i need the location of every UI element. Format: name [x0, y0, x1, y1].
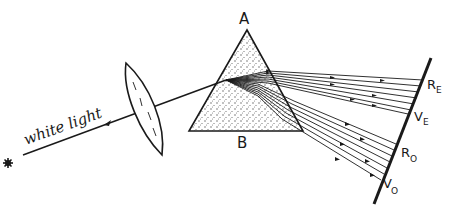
label-violet-extraordinary: V E	[414, 109, 429, 127]
label-red-ordinary: R O	[401, 145, 417, 164]
incident-ray-arrow-icon	[104, 120, 111, 126]
apex-label: A	[239, 10, 250, 28]
svg-text:O: O	[391, 186, 398, 196]
double-refraction-diagram: white light A B	[0, 0, 450, 211]
svg-text:E: E	[436, 85, 442, 95]
svg-text:R: R	[401, 145, 410, 160]
light-source-icon	[3, 158, 13, 168]
white-light-label: white light	[21, 104, 105, 149]
converging-lens	[125, 63, 162, 155]
base-label: B	[237, 134, 247, 152]
incident-ray	[23, 80, 226, 155]
svg-text:E: E	[423, 117, 429, 127]
label-violet-ordinary: V O	[383, 176, 398, 196]
svg-text:R: R	[427, 77, 436, 92]
svg-text:O: O	[410, 154, 417, 164]
label-red-extraordinary: R E	[427, 77, 442, 95]
svg-text:V: V	[414, 109, 423, 124]
